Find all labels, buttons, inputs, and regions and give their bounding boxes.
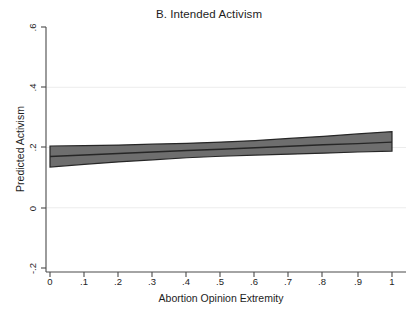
xtick-label-0.6: .6 — [242, 276, 266, 287]
xtick-label-0.8: .8 — [310, 276, 334, 287]
xtick-label-0: 0 — [38, 276, 62, 287]
xtick-label-0.3: .3 — [140, 276, 164, 287]
xtick-label-0.5: .5 — [208, 276, 232, 287]
xtick-label-1: 1 — [380, 276, 404, 287]
ytick-label-0.4: .4 — [27, 78, 38, 98]
xtick-label-0.7: .7 — [276, 276, 300, 287]
xtick-label-0.9: .9 — [346, 276, 370, 287]
ytick-label-0.6: .6 — [27, 18, 38, 38]
x-axis-label: Abortion Opinion Extremity — [46, 292, 396, 304]
chart-figure: B. Intended Activism — [0, 0, 418, 313]
xtick-label-0.2: .2 — [106, 276, 130, 287]
xtick-label-0.1: .1 — [72, 276, 96, 287]
ytick-label-0: 0 — [27, 199, 38, 219]
ytick-label-0.2: .2 — [27, 138, 38, 158]
xtick-label-0.4: .4 — [174, 276, 198, 287]
y-axis-label: Predicted Activism — [14, 89, 26, 209]
ytick-label--0.2: -.2 — [27, 258, 38, 280]
plot-area — [0, 0, 418, 313]
